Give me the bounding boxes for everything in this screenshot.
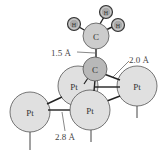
- h-top-label: H: [104, 10, 109, 16]
- h-atom-top: H: [100, 6, 113, 19]
- pt-pt-bond-left-back: [47, 97, 62, 104]
- pt-pt-bond-front-right: [107, 96, 120, 101]
- h-atom-right: H: [112, 19, 125, 32]
- pt-atom-front: Pt: [70, 90, 110, 130]
- c-pt-bond-front: [94, 80, 95, 91]
- c-atom-lower: C: [83, 57, 107, 81]
- c-c-leader-line: [77, 52, 95, 53]
- h-left-label: H: [72, 22, 77, 28]
- pt-back-label: Pt: [70, 82, 78, 92]
- pt-right-label: Pt: [133, 82, 141, 92]
- methyl-on-platinum-diagram: Pt Pt Pt Pt C C H: [0, 0, 163, 150]
- c-pt-bond-length-label: 2.0 Å: [129, 55, 150, 65]
- pt-left-label: Pt: [26, 108, 34, 118]
- c-upper-label: C: [93, 32, 99, 42]
- h-atom-left: H: [68, 18, 81, 31]
- c-c-bond-length-label: 1.5 Å: [51, 48, 72, 58]
- pt-front-label: Pt: [86, 106, 94, 116]
- c-atom-upper: C: [83, 23, 109, 49]
- h-right-label: H: [116, 23, 121, 29]
- pt-pt-leader-line: [62, 112, 65, 131]
- pt-atom-left: Pt: [10, 92, 50, 132]
- pt-pt-bond-length-label: 2.8 Å: [55, 132, 76, 142]
- c-pt-bond-right: [104, 74, 120, 80]
- pt-atom-right: Pt: [117, 66, 157, 106]
- c-lower-label: C: [92, 65, 98, 75]
